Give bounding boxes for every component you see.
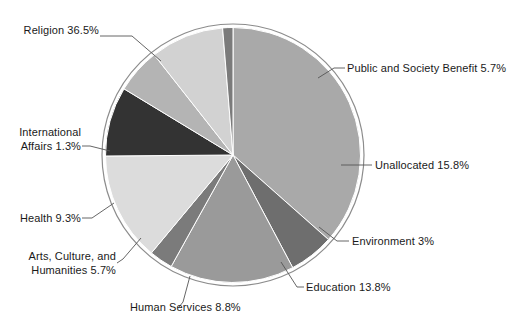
pie-label-health: Health 9.3% (20, 211, 81, 225)
pie-label-environment: Environment 3% (352, 234, 434, 248)
pie-label-unallocated: Unallocated 15.8% (375, 158, 469, 172)
pie-label-human-services: Human Services 8.8% (130, 300, 241, 314)
leader-line-health (82, 203, 114, 218)
pie-label-education: Education 13.8% (306, 280, 391, 294)
pie-label-religion: Religion 36.5% (24, 23, 99, 37)
pie-chart-figure: Religion 36.5% Public and Society Benefi… (0, 0, 508, 326)
pie-label-arts-culture-humanities: Arts, Culture, and Humanities 5.7% (29, 249, 116, 277)
pie-label-international-line-1: International (19, 125, 81, 139)
pie-label-international-affairs: International Affairs 1.3% (19, 125, 81, 153)
pie-label-arts-line-1: Arts, Culture, and (29, 249, 116, 263)
pie-label-arts-line-2: Humanities 5.7% (29, 263, 116, 277)
leader-line-arts-culture-humanities (117, 238, 141, 263)
pie-label-international-line-2: Affairs 1.3% (19, 139, 81, 153)
pie-slices-group (105, 28, 360, 283)
pie-label-public-society-benefit: Public and Society Benefit 5.7% (347, 61, 506, 75)
